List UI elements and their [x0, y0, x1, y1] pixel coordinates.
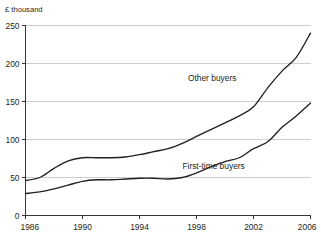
- y-axis-title: £ thousand: [5, 5, 43, 14]
- y-tick-label-50: 50: [10, 173, 20, 183]
- x-tick-label-1986: 1986: [21, 222, 40, 232]
- series-line-other-buyers: [26, 33, 311, 180]
- y-tick-labels-group: 050100150200250: [6, 21, 20, 221]
- x-tick-label-2002: 2002: [244, 222, 263, 232]
- line-chart: 050100150200250 198619901994199820022006…: [0, 0, 321, 244]
- axes-group: [26, 26, 311, 216]
- y-tick-label-150: 150: [6, 97, 20, 107]
- x-tick-labels-group: 198619901994199820022006: [21, 222, 317, 232]
- chart-container: 050100150200250 198619901994199820022006…: [0, 0, 321, 244]
- x-tick-label-2006: 2006: [298, 222, 317, 232]
- y-tick-label-200: 200: [6, 59, 20, 69]
- gridlines-group: [26, 26, 311, 178]
- series-group: [26, 33, 311, 193]
- series-annotations-group: Other buyersFirst-time buyers: [182, 73, 244, 171]
- series-label-other-buyers: Other buyers: [188, 73, 236, 83]
- y-tick-label-0: 0: [15, 211, 20, 221]
- y-tick-label-100: 100: [6, 135, 20, 145]
- y-tick-label-250: 250: [6, 21, 20, 31]
- tick-marks-group: [22, 26, 311, 220]
- x-tick-label-1998: 1998: [187, 222, 206, 232]
- x-tick-label-1994: 1994: [130, 222, 149, 232]
- x-tick-label-1990: 1990: [73, 222, 92, 232]
- series-label-first-time-buyers: First-time buyers: [182, 161, 244, 171]
